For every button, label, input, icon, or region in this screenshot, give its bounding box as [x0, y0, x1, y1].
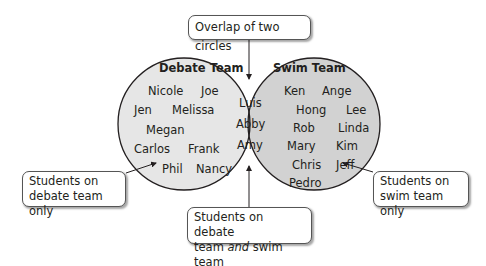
- debate-member: Joe: [201, 86, 219, 98]
- both-member: Amy: [237, 140, 263, 152]
- callout-both-pre: team: [194, 240, 228, 254]
- callout-both-em: and: [228, 240, 250, 254]
- debate-member: Carlos: [134, 144, 170, 156]
- callout-debate-only: Students on debate team only: [22, 171, 126, 207]
- debate-member: Nicole: [148, 86, 183, 98]
- callout-swim-only: Students on swim team only: [373, 171, 469, 207]
- debate-team-title: Debate Team: [159, 63, 244, 75]
- callout-both-line2: team and swim team: [194, 240, 305, 266]
- debate-member: Nancy: [196, 164, 232, 176]
- debate-member: Frank: [188, 144, 220, 156]
- swim-member: Jeff: [336, 160, 354, 172]
- callout-both: Students on debate team and swim team: [187, 207, 312, 244]
- swim-member: Linda: [338, 123, 369, 135]
- callout-swim-only-line2: swim team only: [380, 189, 462, 219]
- swim-member: Lee: [346, 105, 366, 117]
- callout-swim-only-line1: Students on: [380, 174, 462, 189]
- debate-member: Jen: [134, 105, 152, 117]
- debate-member: Megan: [146, 125, 185, 137]
- swim-member: Chris: [292, 160, 321, 172]
- debate-member: Melissa: [172, 105, 214, 117]
- swim-member: Pedro: [289, 178, 321, 190]
- both-member: Abby: [236, 119, 265, 131]
- callout-both-line1: Students on debate: [194, 210, 305, 240]
- swim-member: Ange: [322, 86, 352, 98]
- swim-team-title: Swim Team: [273, 63, 346, 75]
- swim-member: Hong: [296, 105, 326, 117]
- callout-debate-only-line2: debate team only: [29, 189, 119, 219]
- both-member: Luis: [239, 98, 262, 110]
- swim-member: Rob: [293, 123, 315, 135]
- callout-debate-only-line1: Students on: [29, 174, 119, 189]
- swim-member: Kim: [336, 141, 358, 153]
- swim-member: Ken: [284, 86, 305, 98]
- swim-member: Mary: [287, 141, 316, 153]
- debate-member: Phil: [162, 164, 183, 176]
- callout-overlap: Overlap of two circles: [188, 15, 311, 40]
